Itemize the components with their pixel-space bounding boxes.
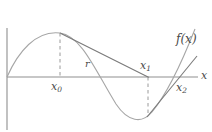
figure-canvas (0, 0, 212, 132)
tangent-line-at-x0 (60, 33, 149, 78)
label-x2: x2 (176, 82, 187, 93)
label-root-r: r (85, 59, 90, 69)
label-function-fx: f(x) (176, 33, 197, 45)
function-curve (7, 29, 195, 120)
label-x1: x1 (140, 60, 151, 71)
label-x-axis: x (201, 70, 207, 81)
label-x2-subscript: 2 (182, 86, 187, 95)
newton-method-figure: x0 x1 x2 r f(x) x (0, 0, 212, 132)
label-x0: x0 (51, 81, 62, 92)
label-x1-subscript: 1 (146, 64, 151, 73)
label-x0-subscript: 0 (57, 85, 62, 94)
tangent-line-at-x1 (147, 56, 197, 117)
